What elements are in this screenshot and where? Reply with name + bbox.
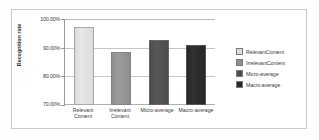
- legend-label-relevant-content: RelevantContent: [246, 49, 284, 55]
- y-axis-title: Recognition rate: [16, 10, 22, 80]
- legend-item-micro-average[interactable]: Micro-average: [236, 68, 306, 79]
- x-tick-label-micro-average: Micro-average: [138, 107, 176, 113]
- bar-macro-average: [186, 45, 206, 105]
- bar-irrelevant-content: [111, 52, 131, 105]
- y-tick-label-80: 80.00%: [16, 73, 60, 79]
- y-tick-mark-70: [61, 105, 65, 106]
- legend-label-micro-average: Micro-average: [246, 71, 279, 77]
- legend-label-irrelevant-content: IrrelevantContent: [246, 60, 285, 66]
- bar-relevant-content: [74, 27, 94, 105]
- legend-swatch-icon-macro-average: [236, 81, 243, 88]
- chart-legend: RelevantContent IrrelevantContent Micro-…: [236, 46, 306, 90]
- legend-item-macro-average[interactable]: Macro-average: [236, 79, 306, 90]
- y-tick-label-100: 100.00%: [16, 16, 60, 22]
- legend-item-irrelevant-content[interactable]: IrrelevantContent: [236, 57, 306, 68]
- x-tick-label-relevant-content: Relevant Content: [66, 107, 100, 120]
- bar-micro-average: [149, 40, 169, 105]
- y-tick-label-70: 70.00%: [16, 101, 60, 107]
- y-tick-label-90: 90.00%: [16, 45, 60, 51]
- legend-item-relevant-content[interactable]: RelevantContent: [236, 46, 306, 57]
- legend-swatch-icon-irrelevant-content: [236, 59, 243, 66]
- x-tick-label-macro-average: Macro-average: [177, 107, 215, 113]
- chart-figure: 100.00% 90.00% 80.00% 70.00% Recognition…: [0, 0, 319, 140]
- x-tick-label-irrelevant-content: Irrelevant Content: [103, 107, 137, 120]
- plot-area: [65, 19, 215, 105]
- legend-swatch-icon-relevant-content: [236, 48, 243, 55]
- legend-label-macro-average: Macro-average: [246, 82, 280, 88]
- gridline-100: [65, 19, 215, 20]
- legend-swatch-icon-micro-average: [236, 70, 243, 77]
